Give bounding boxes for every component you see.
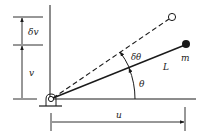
- label-delta-theta: δθ: [131, 52, 141, 62]
- mass-filled: [182, 40, 190, 48]
- label-m: m: [181, 53, 190, 63]
- label-u: u: [116, 110, 122, 120]
- label-delta-v: δv: [28, 27, 39, 37]
- label-v: v: [29, 68, 34, 78]
- pivot-pin: [48, 96, 53, 101]
- label-L: L: [162, 62, 169, 72]
- displaced-mass-hollow: [168, 13, 175, 20]
- theta-arc: [129, 68, 135, 99]
- delta-theta-arc: [120, 52, 129, 67]
- label-theta: θ: [139, 79, 145, 89]
- pendulum-diagram: δv v δθ L m θ u: [0, 0, 204, 136]
